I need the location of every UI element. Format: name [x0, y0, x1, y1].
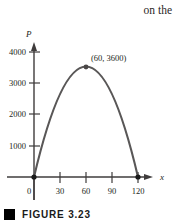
figure-caption: FIGURE 3.23 — [4, 209, 91, 220]
x-tick-label-120: 120 — [132, 186, 145, 196]
plot-canvas: P x 4000 3000 2000 1000 0 30 60 90 120 (… — [0, 18, 176, 204]
y-tick-label-2000: 2000 — [9, 109, 26, 119]
y-tick-label-3000: 3000 — [9, 78, 26, 88]
y-tick-label-1000: 1000 — [9, 141, 26, 151]
vertex-dot — [84, 65, 89, 70]
parabola-curve — [34, 67, 138, 178]
square-bullet-icon — [4, 209, 15, 220]
figure-parabola-plot: P x 4000 3000 2000 1000 0 30 60 90 120 (… — [0, 18, 176, 204]
endpoint-dot-right — [135, 174, 140, 179]
origin-label: 0 — [27, 186, 31, 196]
x-tick-label-60: 60 — [82, 186, 91, 196]
x-axis-label: x — [159, 172, 164, 182]
x-axis — [7, 174, 153, 180]
x-tick-label-90: 90 — [108, 186, 117, 196]
x-tick-label-30: 30 — [56, 186, 65, 196]
figure-caption-text: FIGURE 3.23 — [22, 209, 91, 220]
vertex-annotation-label: (60, 3600) — [91, 53, 127, 63]
y-tick-label-4000: 4000 — [9, 47, 26, 57]
y-axis-label: P — [25, 29, 32, 39]
page-bleed-line: on the — [144, 4, 172, 17]
page-bleed-text: p on the — [144, 0, 172, 17]
endpoint-dot-origin — [31, 174, 36, 179]
